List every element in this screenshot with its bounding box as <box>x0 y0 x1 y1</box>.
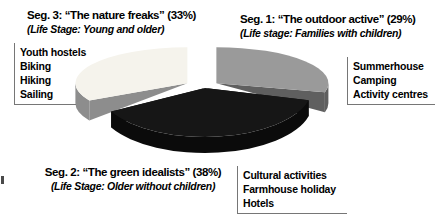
seg3-life-stage: (Life Stage: Young and older) <box>27 23 196 35</box>
edge-artifact-mark <box>1 176 4 184</box>
list-item: Youth hostels <box>20 45 76 59</box>
seg2-activities-list: Cultural activitiesFarmhouse holidayHote… <box>237 166 347 214</box>
seg2-title: Seg. 2: “The green idealists” (38%) <box>33 166 233 179</box>
list-item: Activity centres <box>353 87 435 101</box>
list-item: Camping <box>353 73 435 87</box>
list-item: Summerhouse <box>353 59 435 73</box>
seg1-title: Seg. 1: “The outdoor active” (29%) <box>240 13 416 26</box>
seg1-activities-list: SummerhouseCampingActivity centres <box>347 57 435 105</box>
seg1-life-stage: (Life stage: Families with children) <box>240 27 416 39</box>
seg1-header: Seg. 1: “The outdoor active” (29%) (Life… <box>240 13 416 39</box>
list-item: Biking <box>20 59 76 73</box>
seg3-header: Seg. 3: “The nature freaks” (33%) (Life … <box>27 9 196 35</box>
list-item: Hotels <box>243 196 347 210</box>
seg2-header: Seg. 2: “The green idealists” (38%) (Lif… <box>33 166 233 192</box>
pie-slice-seg3-top <box>76 47 188 100</box>
seg3-activities-list: Youth hostelsBikingHikingSailing <box>14 43 76 105</box>
segmentation-pie-figure: Seg. 3: “The nature freaks” (33%) (Life … <box>0 0 446 224</box>
list-item: Sailing <box>20 87 76 101</box>
list-item: Farmhouse holiday <box>243 182 347 196</box>
seg3-title: Seg. 3: “The nature freaks” (33%) <box>27 9 196 22</box>
seg2-life-stage: (Life Stage: Older without children) <box>33 180 233 192</box>
list-item: Hiking <box>20 73 76 87</box>
list-item: Cultural activities <box>243 168 347 182</box>
